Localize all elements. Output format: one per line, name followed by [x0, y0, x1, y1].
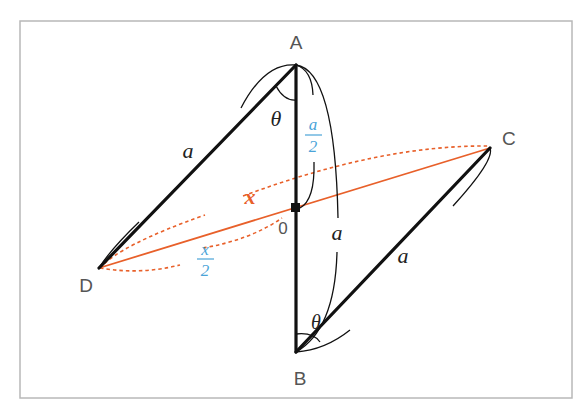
diagonal-label-x: x — [244, 184, 256, 209]
side-label-AB: a — [332, 220, 343, 245]
fraction-numerator: x — [200, 240, 209, 259]
midpoint-O-marker — [291, 203, 300, 212]
fraction-denominator: 2 — [309, 137, 318, 156]
angle-label-B: θ — [311, 311, 321, 333]
point-label-A: A — [290, 32, 303, 53]
side-label-AD: a — [183, 138, 194, 163]
point-label-D: D — [79, 275, 93, 296]
fraction-numerator: a — [309, 115, 318, 134]
angle-label-A: θ — [271, 106, 282, 131]
point-label-B: B — [294, 368, 307, 389]
side-label-BC: a — [398, 243, 409, 268]
fraction-denominator: 2 — [201, 261, 210, 280]
point-label-O: 0 — [278, 219, 287, 238]
diagram-canvas: A B C D 0 a a a θ θ x a 2 x 2 — [0, 0, 581, 418]
point-label-C: C — [502, 128, 516, 149]
